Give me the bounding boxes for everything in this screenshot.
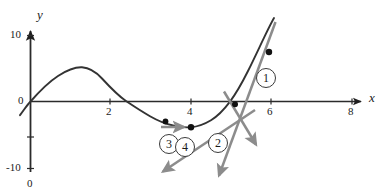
plot-canvas xyxy=(0,0,383,194)
origin-label: 0 xyxy=(27,177,33,189)
point-1 xyxy=(266,49,272,55)
point-3 xyxy=(163,119,169,125)
tangent-line-figure: y x 10 0 -10 0 2 4 6 8 1 2 3 4 xyxy=(0,0,383,194)
annotation-badge-4: 4 xyxy=(175,137,195,157)
y-tick-label-10: 10 xyxy=(10,28,21,40)
y-tick-label-0: 0 xyxy=(18,94,24,106)
x-tick-label-8: 8 xyxy=(348,105,354,117)
point-4 xyxy=(188,124,194,130)
x-tick-label-2: 2 xyxy=(106,105,112,117)
annotation-badge-1: 1 xyxy=(256,68,276,88)
curve-points xyxy=(163,49,273,131)
annotation-badge-2: 2 xyxy=(208,133,228,153)
tangent-line-2 xyxy=(224,92,256,145)
y-tick-label-minus10: -10 xyxy=(6,161,21,173)
point-2 xyxy=(232,101,238,107)
x-tick-label-4: 4 xyxy=(187,105,193,117)
y-axis-label: y xyxy=(37,7,43,23)
x-tick-label-6: 6 xyxy=(267,105,273,117)
x-axis-label: x xyxy=(369,90,375,106)
